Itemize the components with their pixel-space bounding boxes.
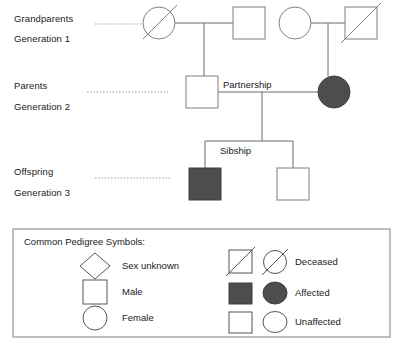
partnership-annotation: Partnership xyxy=(223,79,272,90)
individual-gp-maternal-male[interactable] xyxy=(233,7,265,39)
individual-child-affected-male[interactable] xyxy=(189,168,221,200)
square-symbol xyxy=(186,76,218,108)
pedigree-canvas xyxy=(0,0,403,348)
individual-gp-maternal-female[interactable] xyxy=(143,5,177,39)
square-symbol-affected xyxy=(189,168,221,200)
square-symbol xyxy=(277,168,309,200)
circle-symbol xyxy=(279,7,311,39)
generation-guide-lines xyxy=(87,24,170,178)
legend-symbol-female xyxy=(83,306,107,330)
legend-title: Common Pedigree Symbols: xyxy=(24,236,145,247)
generation-2-number-label: Generation 2 xyxy=(14,102,70,112)
individual-gp-paternal-male[interactable] xyxy=(341,3,381,43)
legend-symbol-male xyxy=(83,280,107,304)
pedigree-diagram: Grandparents Generation 1 Parents Genera… xyxy=(0,0,403,348)
individual-parent-father[interactable] xyxy=(186,76,218,108)
square-unaffected-icon xyxy=(229,312,252,333)
legend-label-deceased: Deceased xyxy=(295,256,338,267)
square-symbol xyxy=(233,7,265,39)
legend-label-male: Male xyxy=(122,286,143,297)
individual-gp-paternal-female[interactable] xyxy=(279,7,311,39)
circle-affected-icon xyxy=(263,282,287,304)
circle-icon xyxy=(83,306,107,330)
generation-3-number-label: Generation 3 xyxy=(14,188,70,198)
square-affected-icon xyxy=(229,283,252,304)
circle-symbol-affected xyxy=(318,76,350,108)
sibship-annotation: Sibship xyxy=(220,145,251,156)
circle-unaffected-icon xyxy=(263,312,287,333)
legend-label-female: Female xyxy=(122,312,154,323)
individual-child-unaffected-male[interactable] xyxy=(277,168,309,200)
legend-label-unaffected: Unaffected xyxy=(295,316,341,327)
legend-label-sex-unknown: Sex unknown xyxy=(122,260,179,271)
generation-3-role-label: Offspring xyxy=(14,167,53,177)
individual-parent-mother[interactable] xyxy=(318,76,350,108)
generation-1-role-label: Grandparents xyxy=(14,14,73,24)
square-icon xyxy=(83,280,107,304)
generation-2-role-label: Parents xyxy=(14,81,47,91)
generation-1-number-label: Generation 1 xyxy=(14,34,70,44)
legend-label-affected: Affected xyxy=(295,287,330,298)
